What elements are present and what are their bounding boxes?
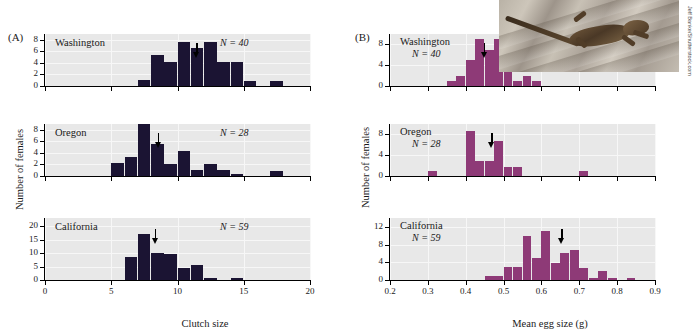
y-axis-tick [385, 280, 389, 281]
gridline-vertical [655, 124, 656, 176]
photo-credit: Jeff Banke/Shutterstock.com [687, 6, 693, 76]
histogram-bar [475, 39, 484, 86]
histogram-bar [204, 42, 217, 86]
y-axis-tick [40, 86, 44, 87]
histogram-bar [164, 62, 177, 86]
histogram-plot-a-washington: WashingtonN = 40 [45, 34, 310, 86]
x-axis-tick [466, 87, 467, 91]
y-axis-tick [40, 141, 44, 142]
y-axis-tick [40, 267, 44, 268]
histogram-bar [560, 253, 569, 280]
histogram-bar [191, 265, 204, 280]
y-axis-line [44, 124, 45, 177]
histogram-bar [204, 164, 217, 176]
x-axis-tick-label: 0.5 [489, 287, 519, 296]
histogram-bar [456, 76, 465, 86]
histogram-bar [151, 144, 164, 176]
y-axis-tick [385, 86, 389, 87]
x-axis-tick-label: 15 [229, 287, 259, 296]
x-axis-tick [466, 177, 467, 181]
histogram-bar [485, 161, 494, 176]
histogram-bar [532, 258, 541, 280]
y-axis-tick [385, 227, 389, 228]
y-axis-tick [385, 176, 389, 177]
x-axis-tick [178, 177, 179, 181]
x-axis-tick-label: 0.6 [526, 287, 556, 296]
y-axis-tick [40, 130, 44, 131]
x-axis-tick-label: 0.7 [564, 287, 594, 296]
histogram-bar [570, 250, 579, 280]
gridline-vertical [310, 124, 311, 176]
histogram-bar [541, 231, 550, 280]
x-axis-tick [655, 177, 656, 181]
y-axis-tick [40, 40, 44, 41]
y-axis-tick-label: 0 [363, 81, 383, 90]
x-axis-tick-label: 0.4 [451, 287, 481, 296]
x-axis-tick [428, 87, 429, 91]
x-axis-line [389, 176, 656, 177]
histogram-bar [111, 163, 124, 176]
x-axis-tick [390, 177, 391, 181]
y-axis-tick [40, 226, 44, 227]
x-axis-tick [310, 281, 311, 285]
y-axis-tick [40, 280, 44, 281]
x-axis-tick-label: 5 [96, 287, 126, 296]
histogram-bar [178, 268, 191, 280]
x-axis-line [389, 280, 656, 281]
x-axis-tick [541, 281, 542, 285]
y-axis-tick [40, 240, 44, 241]
x-axis-tick-label: 20 [295, 287, 325, 296]
histogram-bar [164, 254, 177, 280]
x-axis-tick [45, 177, 46, 181]
y-axis-line [389, 218, 390, 281]
x-axis-tick [111, 87, 112, 91]
y-axis-tick-label: 4 [363, 60, 383, 69]
x-axis-tick [504, 177, 505, 181]
y-axis-line [44, 218, 45, 281]
series-title-a-washington: Washington [55, 37, 105, 48]
y-axis-tick-label: 10 [18, 248, 38, 257]
histogram-plot-b-oregon: OregonN = 28 [390, 124, 655, 176]
gridline-vertical [655, 218, 656, 280]
gridline-vertical [310, 218, 311, 280]
x-axis-tick-label: 0.8 [602, 287, 632, 296]
y-axis-tick [385, 155, 389, 156]
histogram-bar [138, 124, 151, 176]
x-axis-tick-label: 0.2 [375, 287, 405, 296]
y-axis-tick [385, 65, 389, 66]
y-axis-tick [40, 74, 44, 75]
y-axis-tick-label: 8 [363, 240, 383, 249]
y-axis-tick-label: 15 [18, 235, 38, 244]
histogram-bar [466, 60, 475, 86]
y-axis-tick [40, 164, 44, 165]
x-axis-line [389, 86, 656, 87]
lizard-figure [517, 8, 667, 66]
histogram-bar [125, 157, 138, 176]
histogram-bar [138, 234, 151, 280]
y-axis-tick-label: 0 [18, 81, 38, 90]
y-axis-line [389, 124, 390, 177]
x-axis-tick [244, 281, 245, 285]
sample-size-label-a-california: N = 59 [220, 221, 248, 232]
series-title-a-oregon: Oregon [55, 127, 87, 138]
histogram-plot-a-oregon: OregonN = 28 [45, 124, 310, 176]
panel-a-x-axis-title: Clutch size [120, 318, 290, 329]
x-axis-tick [178, 281, 179, 285]
panel-b-letter: (B) [355, 31, 370, 43]
y-axis-line [389, 34, 390, 87]
y-axis-tick [40, 63, 44, 64]
histogram-bar [513, 167, 522, 176]
sample-size-label-b-oregon: N = 28 [412, 138, 440, 149]
histogram-bar [217, 62, 230, 86]
histogram-bar [523, 236, 532, 280]
y-axis-tick-label: 4 [363, 257, 383, 266]
x-axis-tick [579, 281, 580, 285]
x-axis-tick [310, 87, 311, 91]
x-axis-tick [579, 177, 580, 181]
panel-b-x-axis-title: Mean egg size (g) [460, 318, 640, 329]
histogram-bar [551, 263, 560, 280]
series-title-b-oregon: Oregon [400, 126, 432, 137]
x-axis-tick [655, 87, 656, 91]
histogram-bar [151, 253, 164, 280]
x-axis-tick [428, 281, 429, 285]
